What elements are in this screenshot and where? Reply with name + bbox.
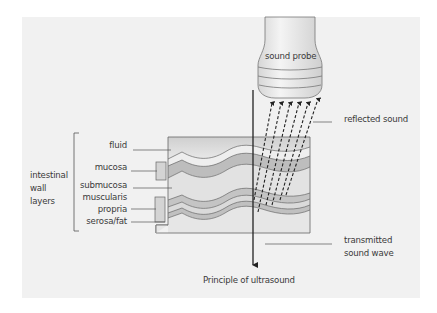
layer-label-mucosa: mucosa (95, 163, 127, 172)
diagram-caption: Principle of ultrasound (203, 276, 295, 285)
reflected-sound-label: reflected sound (344, 115, 408, 124)
ultrasound-diagram: sound probe reflected sound transmitted … (0, 0, 437, 313)
layer-label-muscularis: muscularis (82, 193, 127, 202)
layer-label-fluid: fluid (109, 141, 127, 150)
transmitted-label-line2: sound wave (344, 249, 393, 258)
group-label-line2: wall (30, 184, 46, 193)
transmitted-label-line1: transmitted (344, 236, 392, 245)
muscularis-marker (155, 197, 165, 222)
layer-label-propria: propria (98, 205, 127, 214)
group-label-line3: layers (30, 197, 55, 206)
tissue-block (168, 137, 310, 233)
group-label-line1: intestinal (30, 171, 68, 180)
diagram-graphic (0, 0, 437, 313)
layer-label-submucosa: submucosa (80, 181, 127, 190)
mucosa-marker (156, 162, 166, 180)
layer-label-serosa-fat: serosa/fat (86, 217, 127, 226)
probe-label: sound probe (265, 52, 316, 61)
